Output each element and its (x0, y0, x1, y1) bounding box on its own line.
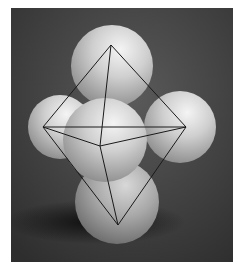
balloon-top (71, 25, 153, 107)
octahedron-balloon-photo (11, 8, 233, 262)
